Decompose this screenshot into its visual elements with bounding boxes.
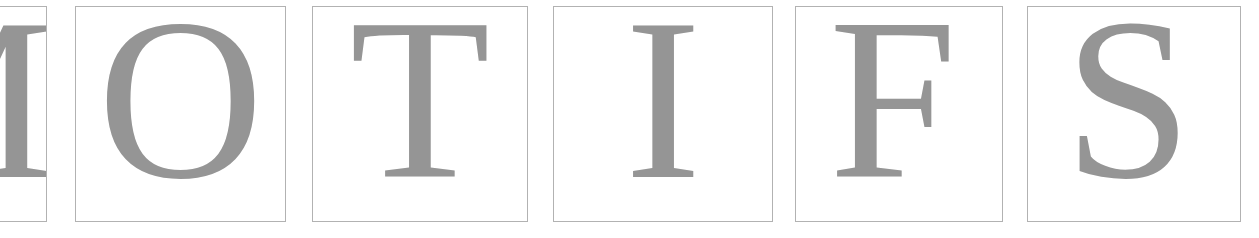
letter-glyph: F (829, 6, 957, 215)
letter-tile-o[interactable]: O (75, 6, 286, 222)
letter-tile-t[interactable]: T (312, 6, 528, 222)
letter-tile-strip: MOTIFS (0, 0, 1259, 238)
letter-tile-s[interactable]: S (1027, 6, 1241, 222)
letter-glyph: I (625, 6, 702, 215)
letter-glyph: M (0, 6, 47, 215)
letter-tile-i[interactable]: I (553, 6, 773, 222)
letter-tile-m[interactable]: M (0, 6, 47, 222)
letter-glyph: O (97, 6, 263, 215)
letter-glyph: T (350, 6, 491, 215)
letter-tile-f[interactable]: F (795, 6, 1003, 222)
letter-glyph: S (1064, 6, 1192, 215)
